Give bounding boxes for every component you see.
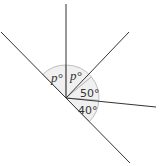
label-right-p: p° bbox=[69, 68, 82, 83]
diagram-canvas: p° p° 50° 40° bbox=[0, 0, 162, 166]
label-50: 50° bbox=[80, 87, 100, 100]
label-40: 40° bbox=[78, 104, 98, 117]
angle-diagram: p° p° 50° 40° bbox=[0, 0, 162, 166]
label-left-p: p° bbox=[50, 70, 63, 85]
